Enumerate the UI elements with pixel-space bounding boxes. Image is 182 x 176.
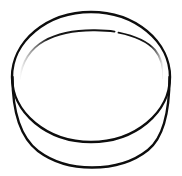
top-opening-ellipse [12, 12, 170, 142]
drawing-canvas: Line drawing of a shallow round containe… [0, 0, 182, 176]
inner-rim-arc-left-segment [20, 30, 115, 79]
container-line-drawing: Line drawing of a shallow round containe… [0, 0, 182, 176]
background-rect [0, 0, 182, 176]
